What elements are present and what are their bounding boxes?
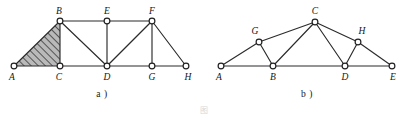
node-label-E: E xyxy=(103,6,110,16)
truss-node-G xyxy=(149,63,155,69)
node-label-D: D xyxy=(341,72,349,82)
truss-edge-GB xyxy=(259,42,273,66)
node-label-G: G xyxy=(252,26,259,36)
figure-b-truss-diagram: AGBCDHE b ) xyxy=(205,0,409,104)
node-label-C: C xyxy=(56,72,63,82)
figure-b-label-layer: AGBCDHE xyxy=(215,6,396,82)
truss-node-D xyxy=(342,63,348,69)
figure-b-node-layer xyxy=(218,19,395,69)
truss-node-G xyxy=(256,39,262,45)
node-label-B: B xyxy=(270,72,276,82)
node-label-C: C xyxy=(312,6,319,16)
truss-edge-HE xyxy=(358,42,392,66)
plate-caption: 图 xyxy=(0,104,409,115)
truss-node-E xyxy=(389,63,395,69)
node-label-B: B xyxy=(56,6,62,16)
truss-node-B xyxy=(270,63,276,69)
truss-node-A xyxy=(11,63,17,69)
truss-node-F xyxy=(149,18,155,24)
figure-b-edge-layer xyxy=(221,22,392,66)
figure-plate: ABCDEFGH a ) AGBCDHE b ) 图 xyxy=(0,0,409,120)
node-label-A: A xyxy=(8,72,15,82)
node-label-H: H xyxy=(358,26,367,36)
truss-edge-DF xyxy=(107,21,152,66)
truss-edge-AG xyxy=(221,42,259,66)
truss-edge-DH xyxy=(345,42,358,66)
truss-node-D xyxy=(104,63,110,69)
truss-node-H xyxy=(355,39,361,45)
truss-node-B xyxy=(57,18,63,24)
truss-node-H xyxy=(183,63,189,69)
truss-edge-FH xyxy=(152,21,186,66)
node-label-E: E xyxy=(389,72,396,82)
node-label-A: A xyxy=(215,72,222,82)
truss-node-C xyxy=(57,63,63,69)
figure-b-sub-caption: b ) xyxy=(301,89,313,100)
truss-edge-BD xyxy=(60,21,107,66)
node-label-D: D xyxy=(103,72,111,82)
truss-node-E xyxy=(104,18,110,24)
truss-node-A xyxy=(218,63,224,69)
truss-edge-BC xyxy=(273,22,315,66)
figure-a-truss-diagram: ABCDEFGH a ) xyxy=(0,0,205,104)
node-label-H: H xyxy=(184,72,193,82)
node-label-F: F xyxy=(148,6,155,16)
node-label-G: G xyxy=(149,72,156,82)
truss-edge-GC xyxy=(259,22,315,42)
figure-a-sub-caption: a ) xyxy=(96,89,107,100)
truss-node-C xyxy=(312,19,318,25)
